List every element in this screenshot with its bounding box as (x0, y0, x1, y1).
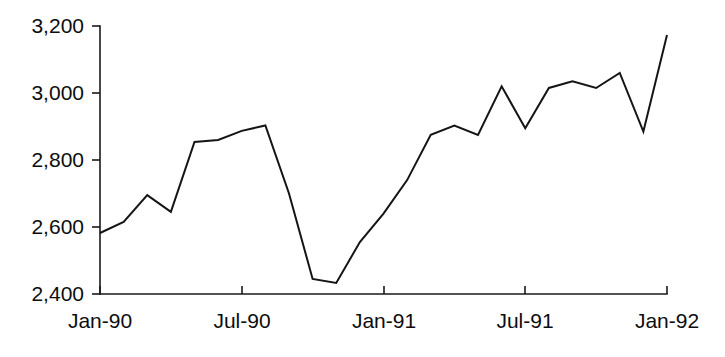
chart-canvas: 2,4002,6002,8003,0003,200 Jan-90Jul-90Ja… (0, 0, 725, 357)
y-axis-tick-label: 3,200 (31, 14, 84, 37)
y-axis-tick-labels: 2,4002,6002,8003,0003,200 (31, 14, 84, 305)
x-axis-tick-label: Jul-90 (213, 309, 270, 332)
x-axis-tick-label: Jul-91 (496, 309, 553, 332)
x-axis-tick-marks (100, 286, 667, 294)
y-axis-tick-label: 3,000 (31, 81, 84, 104)
data-series-group (100, 35, 667, 283)
y-axis-tick-label: 2,800 (31, 148, 84, 171)
x-axis-tick-label: Jan-90 (68, 309, 132, 332)
y-axis-tick-marks (92, 26, 100, 294)
x-axis-tick-label: Jan-91 (352, 309, 416, 332)
x-axis-tick-label: Jan-92 (635, 309, 699, 332)
line-chart-figure: 2,4002,6002,8003,0003,200 Jan-90Jul-90Ja… (0, 0, 725, 357)
data-series-line (100, 35, 667, 283)
x-axis-tick-labels: Jan-90Jul-90Jan-91Jul-91Jan-92 (68, 309, 699, 332)
y-axis (92, 26, 100, 294)
x-axis (100, 286, 667, 294)
y-axis-tick-label: 2,400 (31, 282, 84, 305)
y-axis-tick-label: 2,600 (31, 215, 84, 238)
